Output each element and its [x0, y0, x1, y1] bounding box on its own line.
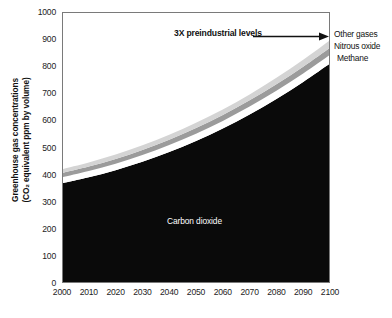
y-tick-900: 900 [26, 34, 56, 44]
x-tick-2060: 2060 [214, 287, 232, 297]
y-axis-title-line1: Greenhouse gas concentrations [10, 10, 21, 270]
y-axis-tick-labels: 01002003004005006007008009001000 [26, 0, 56, 318]
y-tick-800: 800 [26, 61, 56, 71]
y-tick-700: 700 [26, 88, 56, 98]
stacked-area-series [62, 12, 330, 283]
x-tick-2080: 2080 [267, 287, 285, 297]
x-tick-2040: 2040 [160, 287, 178, 297]
annotation-3x-preindustrial: 3X preindustrial levels [174, 28, 262, 38]
series-label-carbon-dioxide: Carbon dioxide [167, 216, 222, 226]
x-tick-2010: 2010 [80, 287, 98, 297]
y-tick-100: 100 [26, 251, 56, 261]
greenhouse-gas-chart: Greenhouse gas concentrations (CO₂ equiv… [0, 0, 392, 318]
x-tick-2030: 2030 [133, 287, 151, 297]
y-tick-200: 200 [26, 224, 56, 234]
x-tick-2070: 2070 [240, 287, 258, 297]
y-tick-300: 300 [26, 197, 56, 207]
x-tick-2050: 2050 [187, 287, 205, 297]
x-tick-2100: 2100 [321, 287, 339, 297]
y-tick-600: 600 [26, 115, 56, 125]
x-axis-tick-labels: 2000201020202030204020502060207020802090… [0, 287, 392, 303]
legend-label-methane: Methane [337, 53, 368, 63]
x-tick-2090: 2090 [294, 287, 312, 297]
legend-label-other-gases: Other gases [334, 29, 377, 39]
y-tick-1000: 1000 [26, 7, 56, 17]
x-tick-2000: 2000 [53, 287, 71, 297]
y-tick-500: 500 [26, 143, 56, 153]
annotation-arrow-icon [253, 32, 329, 41]
legend-label-nitrous-oxide: Nitrous oxide [334, 41, 380, 51]
y-tick-400: 400 [26, 170, 56, 180]
plot-area [62, 12, 330, 283]
x-tick-2020: 2020 [106, 287, 124, 297]
